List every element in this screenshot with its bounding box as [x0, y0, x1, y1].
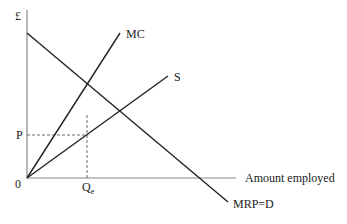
mrp-demand-curve [27, 33, 228, 202]
supply-curve [27, 76, 168, 178]
x-axis-label: Amount employed [245, 171, 335, 185]
mrp-label: MRP=D [233, 197, 274, 211]
monopsony-diagram: £ 0 Amount employed MC S MRP=D P Qe [0, 0, 347, 224]
mc-label: MC [126, 27, 145, 41]
price-label: P [16, 128, 23, 142]
origin-label: 0 [15, 177, 21, 191]
mc-curve [27, 33, 120, 178]
quantity-label: Qe [82, 180, 95, 196]
quantity-subscript: e [91, 187, 95, 196]
supply-label: S [174, 70, 181, 84]
quantity-main: Q [82, 180, 91, 194]
y-axis-label: £ [15, 9, 21, 23]
